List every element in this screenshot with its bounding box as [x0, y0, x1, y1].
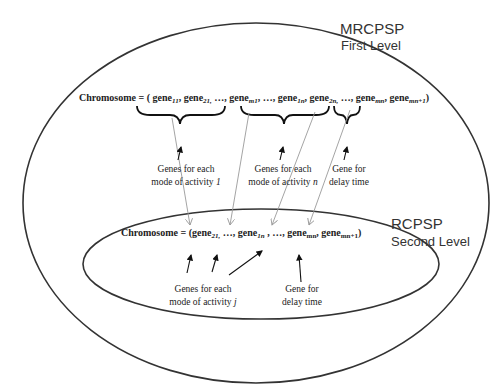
gene-sub: mn+1 — [409, 97, 426, 105]
brace-activity-n-icon — [241, 106, 329, 124]
gene-sub: 1n — [257, 232, 265, 240]
gene-1n: gene — [278, 92, 298, 103]
gene-mn-plus-1: gene — [321, 227, 341, 238]
arrow-activity-n-icon — [280, 147, 283, 160]
gene-sep: …, — [220, 227, 238, 238]
gene-sub: 1n — [297, 97, 305, 105]
chromosome-prefix: Chromosome = ( — [121, 227, 193, 239]
first-level-label: MRCPSP First Level — [340, 20, 404, 53]
gene-sub: 21, — [211, 232, 221, 240]
second-level-title: RCPSP — [391, 215, 443, 232]
label-text: mode of activity — [151, 177, 216, 187]
gene-sep: ) — [358, 227, 361, 239]
arrow-delay-second-icon — [299, 255, 301, 282]
label-activity-j-line1: Genes for each — [175, 284, 232, 294]
first-level-ellipse — [23, 23, 489, 383]
label-index: 1 — [216, 177, 221, 187]
gene-sub: 11 — [172, 97, 179, 105]
second-level-label: RCPSP Second Level — [391, 215, 470, 249]
gene-sub: mn — [375, 97, 384, 105]
label-text: mode of activity — [169, 297, 234, 307]
gene-mn: gene — [287, 227, 307, 238]
gene-sep: , …, — [258, 92, 278, 103]
label-delay-second-line1: Gene for — [285, 284, 319, 294]
label-activity-1-line1: Genes for each — [158, 164, 215, 174]
label-index: n — [313, 177, 318, 187]
first-chromosome-labels: Genes for each mode of activity 1 Genes … — [151, 164, 369, 187]
gene-21: gene — [184, 92, 204, 103]
gene-sep: …, — [338, 92, 356, 103]
second-level-ellipse — [83, 209, 439, 319]
diagram-canvas: MRCPSP First Level RCPSP Second Level Ch… — [0, 0, 502, 387]
label-activity-1-line2: mode of activity 1 — [151, 177, 220, 187]
bottom-label-arrows — [187, 251, 301, 282]
arrow-activity-j-3-icon — [229, 251, 262, 275]
second-chromosome-labels: Genes for each mode of activity j Gene f… — [169, 284, 322, 307]
gene-1n: gene — [238, 227, 258, 238]
brace-activity-1-icon — [137, 106, 225, 124]
label-delay-second-line2: delay time — [282, 297, 322, 307]
gene-sep: ) — [426, 92, 429, 104]
brace-delay-icon — [334, 106, 360, 124]
gene-m1: gene — [229, 92, 249, 103]
arrow-activity-j-2-icon — [212, 255, 217, 272]
second-chromosome: Chromosome = (gene21, …, gene1n , …, gen… — [121, 227, 361, 240]
label-text: mode of activity — [248, 177, 313, 187]
gene-sub: mn+1 — [341, 232, 359, 240]
gene-sep: …, — [212, 92, 230, 103]
label-activity-n-line2: mode of activity n — [248, 177, 318, 187]
gene-mn-plus-1: gene — [390, 92, 410, 103]
label-activity-j-line2: mode of activity j — [169, 297, 237, 307]
label-delay-line2: delay time — [329, 177, 369, 187]
label-activity-n-line1: Genes for each — [255, 164, 312, 174]
gene-sub: 21, — [202, 97, 212, 105]
gene-sub: 2n, — [328, 97, 338, 105]
connector-gene-1n — [230, 113, 249, 225]
arrow-activity-j-1-icon — [187, 255, 191, 273]
top-label-arrows — [178, 147, 347, 160]
first-level-title: MRCPSP — [340, 20, 404, 37]
gene-2n: gene — [310, 92, 330, 103]
gene-11: gene — [153, 92, 173, 103]
arrow-activity-1-icon — [178, 147, 181, 160]
label-delay-line1: Gene for — [332, 164, 366, 174]
gene-mn: gene — [356, 92, 376, 103]
gene-21: gene — [192, 227, 212, 238]
chromosome-prefix: Chromosome = ( — [79, 92, 153, 104]
gene-sub: m1 — [249, 97, 258, 105]
gene-sep: , …, — [265, 227, 288, 238]
gene-sub: mn — [307, 232, 317, 240]
arrow-delay-icon — [344, 147, 347, 160]
first-chromosome: Chromosome = ( gene11, gene21, …, genem1… — [79, 92, 429, 105]
second-level-subtitle: Second Level — [391, 234, 470, 249]
first-level-subtitle: First Level — [341, 38, 401, 53]
